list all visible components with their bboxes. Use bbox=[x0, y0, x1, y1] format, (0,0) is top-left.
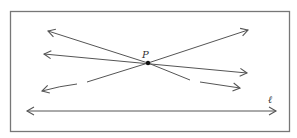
point-p-label: P bbox=[141, 49, 149, 60]
diagram-canvas: P ℓ bbox=[0, 0, 297, 138]
diagram-frame bbox=[11, 12, 290, 132]
line-l-label: ℓ bbox=[268, 94, 272, 105]
point-p bbox=[146, 61, 150, 65]
